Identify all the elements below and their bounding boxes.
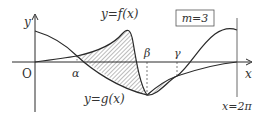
right-bound-label: x=2π [222, 100, 252, 113]
x-axis-label: x [245, 67, 252, 81]
g-curve-label: y=g(x) [83, 92, 125, 106]
beta-label: β [143, 47, 150, 60]
f-curve-label: y=f(x) [100, 7, 139, 21]
alpha-label: α [72, 67, 80, 80]
parameter-box-label: m=3 [182, 12, 209, 25]
gamma-label: γ [174, 47, 181, 60]
graph-diagram: m=3 y x O y=f(x) y=g(x) α β γ x=2π [0, 0, 268, 117]
origin-label: O [22, 67, 32, 81]
y-axis-label: y [23, 15, 31, 29]
